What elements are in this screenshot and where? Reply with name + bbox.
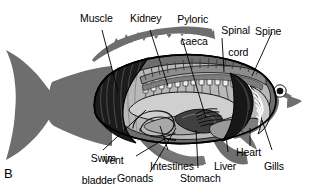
label-spinal-cord: Spinal cord [210,14,250,69]
label-gonads: Gonads [117,173,153,184]
label-stomach: Stomach [180,173,221,184]
label-liver: Liver [214,161,236,172]
label-gills: Gills [264,161,284,172]
label-heart: Heart [236,147,261,158]
label-kidney: Kidney [130,13,162,24]
label-intestines: Intestines [150,161,194,172]
label-spinal-cord-line1: Spinal [221,24,250,36]
label-pyloric-caeca-line2: caeca [177,36,208,47]
label-spinal-cord-line2: cord [221,47,248,58]
label-vent: Vent [103,155,124,166]
label-spine: Spine [255,26,281,37]
fish-anatomy-figure: Muscle Kidney Pyloric caeca Spinal cord … [0,0,312,186]
panel-letter: B [4,166,13,181]
label-pyloric-caeca: Pyloric caeca [166,3,208,58]
label-muscle: Muscle [80,13,113,24]
label-pyloric-caeca-line1: Pyloric [177,13,208,25]
label-swim-bladder-line2: bladder [82,174,116,186]
